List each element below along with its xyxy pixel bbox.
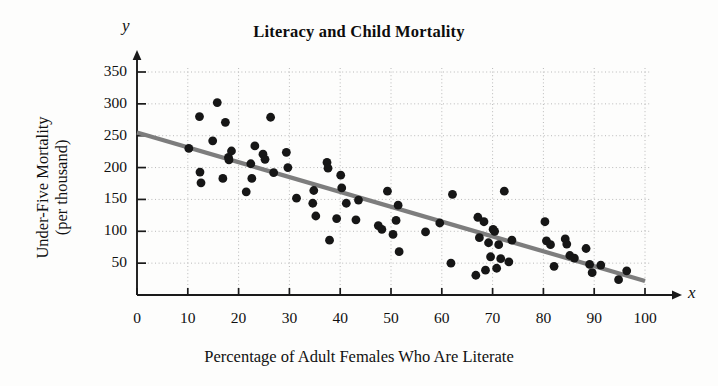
data-point [354,196,363,205]
data-point [261,155,270,164]
data-point [448,190,457,199]
x-tick-label: 40 [314,309,366,327]
data-point [311,212,320,221]
data-point [508,236,517,245]
data-point [570,254,579,263]
data-point [246,159,255,168]
data-point [332,214,341,223]
y-tick-label: 100 [75,221,127,239]
data-point [383,187,392,196]
data-point [218,174,227,183]
data-point [283,163,292,172]
data-point [225,156,234,165]
data-point [585,260,594,269]
data-point [490,227,499,236]
y-tick-label: 250 [75,126,127,144]
x-tick-label: 90 [568,309,620,327]
data-point [336,171,345,180]
data-point [325,236,334,245]
x-tick-label: 70 [467,309,519,327]
x-tick-label: 80 [517,309,569,327]
data-point [208,136,217,145]
data-point [352,215,361,224]
data-point [550,262,559,271]
y-tick-label: 300 [75,94,127,112]
data-point [337,184,346,193]
scatter-plot-figure: Literacy and Child Mortality y x Under-F… [0,0,718,386]
data-point [213,98,222,107]
x-tick-label: 30 [263,309,315,327]
data-point [195,112,204,121]
data-point [471,271,480,280]
data-point [324,164,333,173]
data-point [184,144,193,153]
data-point [541,217,550,226]
data-point [582,244,591,253]
data-point [486,252,495,261]
y-axis-ticks [137,72,146,263]
data-point [227,147,236,156]
data-point [622,266,631,275]
x-tick-label: 50 [365,309,417,327]
data-point [394,201,403,210]
data-point [562,240,571,249]
data-point [308,199,317,208]
x-tick-label: 0 [111,309,163,327]
data-point [475,233,484,242]
data-point [494,240,503,249]
data-point [247,174,256,183]
data-point [614,275,623,284]
y-tick-label: 200 [75,158,127,176]
x-tick-label: 10 [162,309,214,327]
data-point [342,199,351,208]
data-point [492,264,501,273]
x-axis-ticks [137,288,645,295]
data-point [221,118,230,127]
y-tick-label: 50 [75,253,127,271]
y-tick-label: 350 [75,62,127,80]
data-point [596,261,605,270]
data-point [392,216,401,225]
data-point [282,148,291,157]
data-point [504,257,513,266]
y-tick-label: 150 [75,189,127,207]
data-point [481,266,490,275]
data-point [480,217,489,226]
data-point [292,194,301,203]
data-point [447,259,456,268]
data-point [484,238,493,247]
data-point [588,268,597,277]
data-point [546,240,555,249]
x-tick-label: 60 [416,309,468,327]
x-tick-label: 100 [619,309,671,327]
data-point [197,178,206,187]
data-point [389,230,398,239]
data-point [496,254,505,263]
data-point [242,187,251,196]
data-point [266,113,275,122]
data-point [196,168,205,177]
x-tick-label: 20 [213,309,265,327]
data-point [250,142,259,151]
data-point [421,228,430,237]
data-point [309,186,318,195]
data-point [395,247,404,256]
data-point [500,187,509,196]
data-point [435,219,444,228]
data-point [377,225,386,234]
data-point [269,168,278,177]
